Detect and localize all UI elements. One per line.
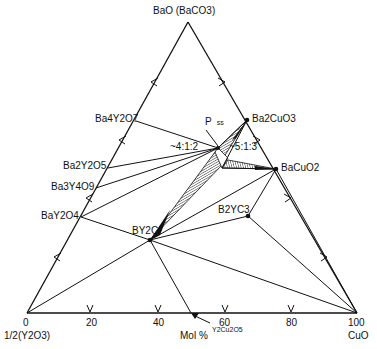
p-ss-main: P <box>205 116 212 127</box>
y2cu2o5-arrowhead <box>191 313 199 319</box>
label-y2cu2o5: Y2Cu2O5 <box>212 326 243 333</box>
label-b2yc3: B2YC3 <box>218 205 250 215</box>
label-p-ss: Pss <box>205 117 224 127</box>
p-ss-sub: ss <box>217 119 224 126</box>
label-bay2o4: BaY2O4 <box>41 211 79 221</box>
base-ticks <box>87 305 294 312</box>
label-ba2cuo3: Ba2CuO3 <box>252 114 296 124</box>
axis-label: Mol % <box>180 331 208 341</box>
label-ratio-412: ~4:1:2 <box>170 142 198 152</box>
vertex-label-left: 1/2(Y2O3) <box>4 331 50 341</box>
tick-0: 0 <box>23 318 29 328</box>
label-bacuo2: BaCuO2 <box>281 163 319 173</box>
label-ba2y2o5: Ba2Y2O5 <box>63 161 106 171</box>
phase-points <box>148 118 279 243</box>
vertex-label-top: BaO (BaCO3) <box>153 6 215 16</box>
label-by2c: BY2C <box>132 226 158 236</box>
vertex-label-right: CuO <box>348 331 369 341</box>
tick-80: 80 <box>286 318 297 328</box>
label-ba3y4o9: Ba3Y4O9 <box>51 182 94 192</box>
tick-100: 100 <box>348 318 365 328</box>
label-ba4y2o7: Ba4Y2O7 <box>95 114 138 124</box>
ternary-diagram-canvas <box>0 0 377 349</box>
tick-40: 40 <box>153 318 164 328</box>
tick-20: 20 <box>86 318 97 328</box>
label-ratio-513: ~5:1:3 <box>229 142 257 152</box>
